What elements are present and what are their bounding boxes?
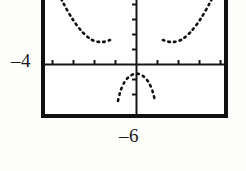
y-window-label: –4 — [11, 51, 31, 70]
x-window-label: –6 — [119, 126, 139, 145]
plot-background — [43, 0, 226, 116]
calculator-graph-figure: –4 –6 — [0, 0, 246, 171]
